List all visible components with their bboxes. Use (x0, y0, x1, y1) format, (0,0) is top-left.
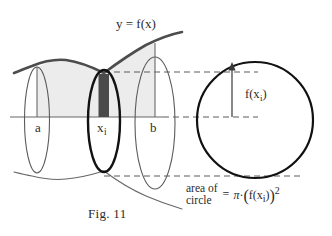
sample-point-label: xi (97, 121, 107, 137)
right-bound-label: b (150, 121, 157, 134)
sample-disk-radius-bar (99, 74, 110, 117)
lower-silhouette-curve (14, 171, 182, 209)
exponent-two: 2 (275, 185, 280, 196)
area-formula-equals: = (218, 187, 234, 202)
area-formula-lhs: area of circle (186, 183, 218, 207)
area-formula-rhs: π·(f(xi))2 (233, 185, 279, 205)
radius-label-prefix: f(x (245, 87, 260, 101)
sample-point-variable: x (97, 120, 104, 135)
radius-label: f(xi) (245, 88, 267, 103)
radius-label-suffix: ) (263, 87, 267, 101)
figure-caption: Fig. 11 (88, 207, 126, 220)
sample-point-index: i (104, 127, 107, 137)
area-formula-lhs-line2: circle (186, 195, 218, 207)
area-formula: area of circle = π·(f(xi))2 (186, 183, 280, 207)
shaded-region (37, 42, 155, 117)
left-bound-label: a (35, 121, 41, 134)
solid-of-revolution-diagram (0, 0, 332, 236)
fx-prefix: f(x (249, 188, 263, 202)
figure-container: y = f(x) a xi b f(xi) area of circle = π… (0, 0, 332, 236)
cross-section-circle (197, 62, 313, 178)
function-label: y = f(x) (116, 17, 156, 30)
